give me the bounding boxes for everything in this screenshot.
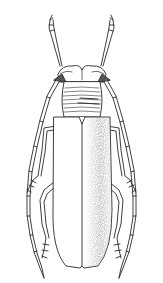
beetle-illustration — [0, 0, 163, 283]
